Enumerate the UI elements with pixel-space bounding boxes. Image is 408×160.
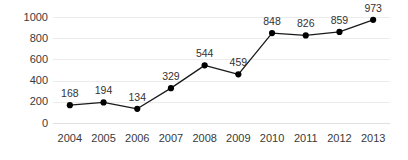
data-point-marker	[67, 102, 73, 108]
gridline	[53, 123, 390, 124]
data-point-label: 168	[61, 88, 79, 99]
data-point-label: 194	[95, 85, 113, 96]
data-point-label: 826	[297, 18, 315, 29]
data-point-marker	[303, 32, 309, 38]
y-tick-label: 800	[30, 33, 48, 44]
data-point-marker	[100, 99, 106, 105]
data-point-label: 859	[331, 15, 349, 26]
series-line	[70, 20, 373, 109]
x-tick-label: 2009	[226, 132, 250, 144]
y-tick-label: 200	[30, 96, 48, 107]
x-tick-label: 2006	[125, 132, 149, 144]
data-point-label: 848	[263, 16, 281, 27]
data-point-label: 329	[162, 71, 180, 82]
x-tick-label: 2005	[91, 132, 115, 144]
x-tick-label: 2012	[327, 132, 351, 144]
y-tick-label: 0	[42, 118, 48, 129]
x-axis: 2004200520062007200820092010201120122013	[0, 132, 408, 152]
data-point-label: 973	[364, 3, 382, 14]
y-tick-label: 400	[30, 75, 48, 86]
data-point-marker	[269, 30, 275, 36]
y-tick-label: 1000	[24, 12, 48, 23]
data-point-marker	[235, 71, 241, 77]
x-tick-label: 2013	[361, 132, 385, 144]
line-chart: 02004006008001000 1681941343295444598488…	[0, 0, 408, 160]
x-tick-label: 2011	[294, 132, 318, 144]
x-tick-label: 2008	[192, 132, 216, 144]
y-tick-label: 600	[30, 54, 48, 65]
data-point-marker	[134, 106, 140, 112]
data-point-marker	[202, 62, 208, 68]
data-point-label: 459	[230, 57, 248, 68]
data-point-marker	[336, 29, 342, 35]
series-line-layer	[53, 17, 390, 123]
series-markers	[67, 17, 377, 112]
x-tick-label: 2010	[260, 132, 284, 144]
data-point-marker	[168, 85, 174, 91]
data-point-label: 544	[196, 48, 214, 59]
x-tick-label: 2004	[58, 132, 82, 144]
data-point-marker	[370, 17, 376, 23]
x-tick-label: 2007	[159, 132, 183, 144]
data-point-label: 134	[128, 92, 146, 103]
plot-area: 168194134329544459848826859973	[53, 17, 390, 123]
